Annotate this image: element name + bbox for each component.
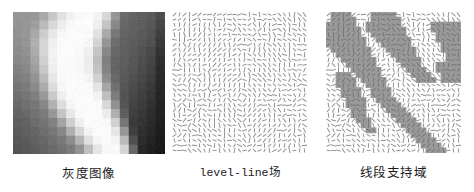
line-support-regions-canvas [326, 12, 461, 153]
level-line-field-canvas [172, 12, 307, 153]
caption-level-line-cjk: 场 [269, 165, 280, 179]
panel-grayscale-image [13, 12, 165, 154]
caption-line-support-text: 线段支持域 [360, 165, 427, 180]
caption-grayscale-text: 灰度图像 [62, 166, 116, 181]
grayscale-image-canvas [13, 12, 165, 154]
caption-grayscale-image: 灰度图像 [13, 168, 165, 181]
caption-line-support-regions: 线段支持域 [326, 167, 461, 180]
caption-level-line-latin: level-line [199, 166, 268, 179]
three-panel-figure: 灰度图像 level-line场 线段支持域 [0, 0, 474, 192]
panel-line-support-regions [326, 12, 461, 153]
panel-level-line-field [172, 12, 307, 153]
caption-level-line-field: level-line场 [172, 167, 307, 179]
